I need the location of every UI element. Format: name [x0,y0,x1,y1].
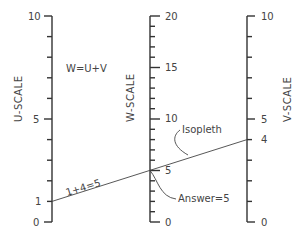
v-scale-label: V-SCALE [282,77,293,122]
v-tick-4: 4 [261,134,267,145]
w-scale-label: W-SCALE [125,73,136,122]
w-tick-0: 0 [165,217,171,228]
w-tick-10: 10 [165,113,178,124]
v-tick-5: 5 [261,114,267,125]
u-scale [44,16,52,222]
u-scale-label: U-SCALE [13,76,24,123]
v-tick-0: 0 [261,217,267,228]
formula-title: W=U+V [66,63,107,74]
nomogram: 10 5 1 0 U-SCALE 20 15 10 5 0 W-SCALE [0,0,301,241]
u-tick-1: 1 [35,196,41,207]
v-scale [247,16,255,222]
w-tick-20: 20 [165,11,178,22]
u-tick-5: 5 [33,114,39,125]
v-tick-10: 10 [261,11,274,22]
answer-leader [150,171,176,200]
u-tick-0: 0 [33,217,39,228]
w-scale [150,16,160,222]
w-tick-5: 5 [165,165,171,176]
u-tick-10: 10 [28,11,41,22]
isopleth-equation: 1+4=5 [64,177,102,198]
w-tick-15: 15 [165,62,178,73]
answer-label: Answer=5 [178,193,230,204]
isopleth-label: Isopleth [182,124,222,135]
